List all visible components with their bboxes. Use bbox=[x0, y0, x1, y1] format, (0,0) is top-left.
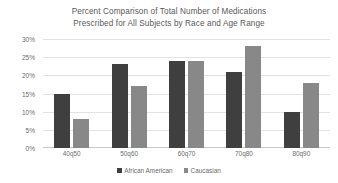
bar-group bbox=[158, 39, 215, 148]
x-axis-tick-label: 60q70 bbox=[158, 150, 215, 157]
bar-african-american bbox=[112, 64, 128, 148]
chart-title: Percent Comparison of Total Number of Me… bbox=[0, 6, 338, 29]
y-axis: 30% 25% 20% 15% 10% 5% 0% bbox=[0, 39, 40, 148]
y-axis-tick: 0% bbox=[26, 145, 35, 152]
legend-swatch-icon bbox=[184, 168, 189, 173]
legend-label: Caucasian bbox=[191, 167, 221, 174]
bar-african-american bbox=[284, 112, 300, 148]
y-axis-tick: 25% bbox=[22, 54, 35, 61]
chart-legend: African American Caucasian bbox=[0, 167, 338, 174]
bar-african-american bbox=[169, 61, 185, 148]
chart-title-line-2: Prescribed for All Subjects by Race and … bbox=[0, 18, 338, 30]
legend-swatch-icon bbox=[117, 168, 122, 173]
bar-caucasian bbox=[73, 119, 89, 148]
bar-caucasian bbox=[303, 83, 319, 148]
x-axis-tick-label: 80q90 bbox=[273, 150, 330, 157]
bar-group bbox=[215, 39, 272, 148]
bar-group bbox=[43, 39, 100, 148]
x-axis: 40q50 50q60 60q70 70q80 80q90 bbox=[43, 150, 330, 157]
y-axis-tick: 10% bbox=[22, 108, 35, 115]
bar-group bbox=[273, 39, 330, 148]
legend-label: African American bbox=[124, 167, 172, 174]
legend-entry-caucasian: Caucasian bbox=[184, 167, 221, 174]
y-axis-tick: 30% bbox=[22, 36, 35, 43]
bar-chart: Percent Comparison of Total Number of Me… bbox=[0, 0, 338, 183]
bar-group bbox=[100, 39, 157, 148]
bar-caucasian bbox=[188, 61, 204, 148]
y-axis-tick: 5% bbox=[26, 126, 35, 133]
legend-entry-african-american: African American bbox=[117, 167, 172, 174]
x-axis-tick-label: 50q60 bbox=[100, 150, 157, 157]
bar-african-american bbox=[226, 72, 242, 148]
bar-caucasian bbox=[131, 86, 147, 148]
x-axis-tick-label: 40q50 bbox=[43, 150, 100, 157]
bar-groups bbox=[43, 39, 330, 148]
bar-african-american bbox=[54, 94, 70, 149]
bar-caucasian bbox=[245, 46, 261, 148]
x-axis-tick-label: 70q80 bbox=[215, 150, 272, 157]
y-axis-tick: 15% bbox=[22, 90, 35, 97]
chart-title-line-1: Percent Comparison of Total Number of Me… bbox=[0, 6, 338, 18]
y-axis-tick: 20% bbox=[22, 72, 35, 79]
